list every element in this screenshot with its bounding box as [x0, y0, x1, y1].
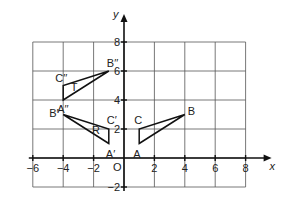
y-axis-label: y	[112, 8, 120, 20]
x-tick-label: −6	[27, 162, 40, 174]
x-axis-label: x	[269, 160, 276, 172]
x-tick-label: 6	[212, 162, 218, 174]
vertex-label: C′′	[55, 72, 67, 84]
triangle-image-T: A′′B′′C′′T	[55, 57, 118, 115]
vertex-label: B′′	[107, 57, 118, 69]
y-axis-arrow-icon	[121, 14, 128, 22]
y-tick-label: −2	[107, 181, 120, 193]
x-tick-label: 4	[182, 162, 188, 174]
vertex-label: B	[188, 105, 195, 117]
vertex-label: A′	[106, 148, 115, 160]
triangle-label: R	[92, 124, 100, 136]
origin-label: O	[113, 161, 122, 173]
x-tick-label: 2	[151, 162, 157, 174]
vertex-label: A′′	[57, 103, 68, 115]
x-tick-label: −2	[87, 162, 100, 174]
coordinate-plane: x y O −6−4−224688642−2 ABCA′B′C′RA′′B′′C…	[0, 0, 290, 205]
triangles: ABCA′B′C′RA′′B′′C′′T	[49, 57, 195, 160]
y-tick-label: 4	[114, 94, 120, 106]
vertex-label: C	[134, 114, 142, 126]
triangle-label: T	[71, 81, 78, 93]
triangle-original: ABC	[133, 105, 195, 160]
y-tick-label: 8	[114, 36, 120, 48]
x-tick-label: 8	[243, 162, 249, 174]
vertex-label: A	[133, 148, 141, 160]
vertex-label: C′	[107, 114, 117, 126]
x-tick-label: −4	[57, 162, 70, 174]
